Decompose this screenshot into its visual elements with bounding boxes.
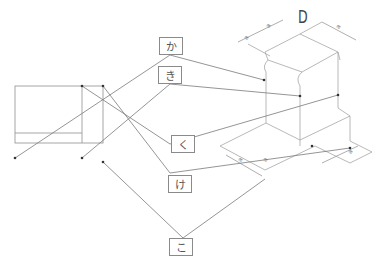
label-ka-text: か (166, 38, 177, 54)
leader-ka-iso (170, 55, 264, 80)
label-box-ka: か (159, 37, 183, 55)
leader-ku-iso (170, 95, 338, 144)
dimension-label-d: D (298, 6, 308, 27)
label-box-ki: き (158, 66, 182, 84)
label-ko-text: こ (176, 239, 187, 255)
leader-ke-iso (170, 148, 350, 173)
label-box-ku: く (171, 135, 195, 153)
label-box-ko: こ (169, 238, 193, 256)
front-view (15, 86, 103, 143)
leader-ko-iso (183, 179, 265, 238)
label-box-ke: け (168, 175, 192, 193)
leader-ko-front (103, 162, 183, 238)
diagram-canvas (0, 0, 384, 265)
label-ke-text: け (175, 176, 186, 192)
leader-ki-iso (170, 84, 300, 96)
label-ku-text: く (178, 136, 189, 152)
front-view-outline (15, 86, 103, 143)
leader-ke-front (103, 86, 170, 173)
label-ki-text: き (165, 67, 176, 83)
